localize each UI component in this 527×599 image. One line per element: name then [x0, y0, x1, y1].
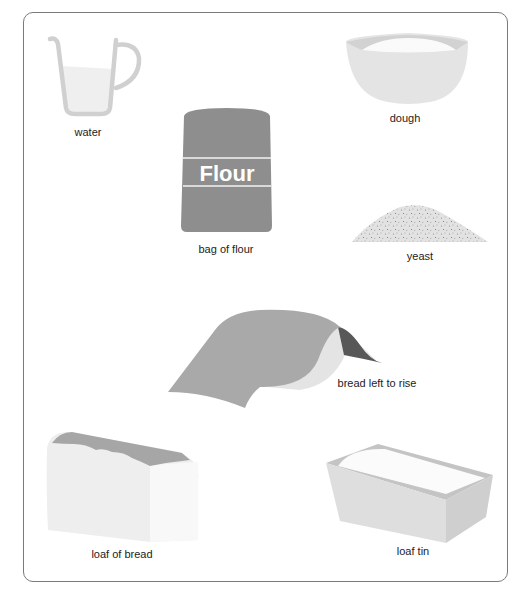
loaf-tin-icon [326, 444, 493, 543]
label-dough: dough [390, 112, 421, 124]
label-loaf: loaf of bread [91, 548, 152, 560]
label-tin: loaf tin [397, 545, 429, 557]
measuring-jug-icon [50, 39, 139, 116]
illustration-canvas: Flour [0, 0, 527, 599]
bread-loaf-icon [47, 432, 199, 542]
label-water: water [75, 126, 102, 138]
yeast-pile-icon [352, 205, 488, 242]
label-yeast: yeast [407, 250, 433, 262]
label-flour: bag of flour [198, 243, 253, 255]
flour-bag-text: Flour [200, 161, 255, 186]
flour-bag-icon: Flour [181, 108, 272, 232]
label-rise: bread left to rise [338, 377, 417, 389]
mixing-bowl-icon [346, 33, 468, 104]
covered-dough-icon [168, 310, 382, 408]
